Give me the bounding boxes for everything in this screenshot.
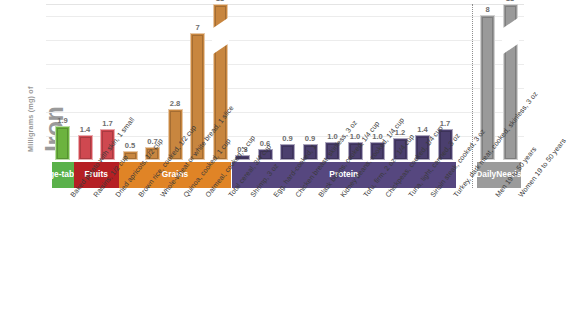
bar-value-label: 8 <box>477 5 498 14</box>
bar-inner-edge <box>482 17 493 159</box>
bar-value-label: 1.7 <box>97 119 118 128</box>
bar-inner-edge <box>57 128 68 159</box>
bar-value-label: 7 <box>187 23 208 32</box>
bar[interactable] <box>78 135 93 160</box>
bar[interactable] <box>280 144 295 160</box>
bar-slot[interactable] <box>55 4 70 160</box>
bar-value-label: 18 <box>500 0 521 3</box>
band-vegetables: Vege-tables <box>52 162 74 188</box>
bar-inner-edge <box>80 137 91 159</box>
bar-inner-edge <box>282 146 293 159</box>
band-label-line: Vege- <box>39 170 61 179</box>
bar-value-label: 18 <box>210 0 231 3</box>
bar-slot[interactable] <box>258 4 273 160</box>
bar-value-label: 0.5 <box>120 141 141 150</box>
bar-slot[interactable] <box>123 4 138 160</box>
bar-value-label: 1.4 <box>75 125 96 134</box>
bar-value-label: 0.9 <box>300 134 321 143</box>
daily-needs-separator <box>472 4 473 188</box>
bar[interactable] <box>55 126 70 160</box>
bar-value-label: 1.9 <box>52 116 73 125</box>
bar-value-label: 0.9 <box>277 134 298 143</box>
bar-slot[interactable] <box>78 4 93 160</box>
y-axis-title: Milligrams (mg) of Iron <box>0 0 46 170</box>
y-axis-units-label: Milligrams (mg) of <box>26 87 35 153</box>
bar-value-label: 1.4 <box>412 125 433 134</box>
x-axis-tick-labels: Baked potato with skin, 1 smallRaisins, … <box>0 188 524 327</box>
bar-value-label: 2.8 <box>165 99 186 108</box>
